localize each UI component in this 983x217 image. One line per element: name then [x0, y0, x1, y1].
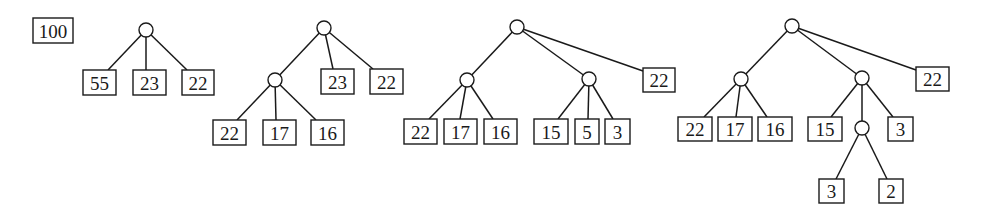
leaf-label: 22 — [189, 73, 208, 94]
leaf-label: 2 — [886, 181, 896, 202]
leaf-box: 23 — [321, 69, 354, 94]
leaf-box: 23 — [133, 70, 166, 95]
internal-node — [855, 71, 869, 85]
leaf-box: 22 — [643, 68, 675, 92]
leaf-label: 17 — [726, 119, 745, 140]
leaf-label: 3 — [827, 181, 837, 202]
stage-4: 22 17 16 15 3 22 3 2 — [678, 19, 949, 203]
leaf-box: 16 — [484, 119, 517, 144]
internal-node — [582, 72, 596, 86]
internal-node — [460, 73, 474, 87]
leaf-label: 17 — [451, 122, 470, 143]
leaf-box: 17 — [444, 119, 477, 144]
leaf-box: 5 — [575, 119, 599, 144]
leaf-label: 22 — [686, 119, 705, 140]
leaf-label: 5 — [582, 122, 592, 143]
leaf-box: 22 — [404, 119, 437, 144]
leaf-box: 22 — [916, 67, 949, 91]
internal-node — [785, 19, 799, 33]
internal-node — [317, 21, 331, 35]
stage-1: 55 23 22 — [83, 23, 214, 95]
leaf-label: 22 — [650, 70, 669, 91]
leaf-box: 22 — [370, 69, 403, 94]
leaf-box: 100 — [33, 18, 73, 43]
leaf-box: 2 — [879, 179, 903, 203]
leaf-box: 3 — [605, 119, 630, 144]
stage-0: 100 — [33, 18, 73, 43]
leaf-label: 100 — [39, 21, 68, 42]
leaf-box: 3 — [888, 117, 913, 141]
leaf-label: 15 — [542, 122, 561, 143]
leaf-box: 22 — [213, 120, 246, 145]
internal-node — [855, 121, 869, 135]
leaf-box: 16 — [311, 120, 344, 145]
leaf-box: 17 — [263, 120, 296, 145]
leaf-label: 17 — [270, 123, 289, 144]
leaf-label: 16 — [766, 119, 785, 140]
leaf-label: 22 — [923, 69, 942, 90]
leaf-label: 22 — [220, 123, 239, 144]
internal-node — [510, 20, 524, 34]
internal-node — [268, 73, 282, 87]
leaf-box: 15 — [808, 117, 842, 141]
leaf-label: 15 — [816, 119, 835, 140]
leaf-label: 16 — [318, 123, 337, 144]
leaf-label: 22 — [377, 72, 396, 93]
leaf-box: 17 — [718, 117, 752, 141]
internal-node — [139, 23, 153, 37]
leaf-box: 15 — [534, 119, 568, 144]
leaf-label: 22 — [411, 122, 430, 143]
leaf-box: 55 — [83, 70, 116, 95]
leaf-label: 23 — [328, 72, 347, 93]
leaf-box: 16 — [758, 117, 792, 141]
internal-node — [734, 72, 748, 86]
stage-3: 22 17 16 15 5 3 22 — [404, 20, 675, 144]
stage-2: 22 17 16 23 22 — [213, 21, 403, 145]
leaf-label: 3 — [613, 122, 623, 143]
tree-diagram: 100 55 23 22 22 — [0, 0, 983, 217]
leaf-box: 22 — [182, 70, 214, 95]
leaf-box: 3 — [819, 179, 844, 203]
leaf-label: 55 — [90, 73, 109, 94]
leaf-box: 22 — [678, 117, 712, 141]
leaf-label: 23 — [140, 73, 159, 94]
leaf-label: 16 — [491, 122, 510, 143]
leaf-label: 3 — [896, 119, 906, 140]
